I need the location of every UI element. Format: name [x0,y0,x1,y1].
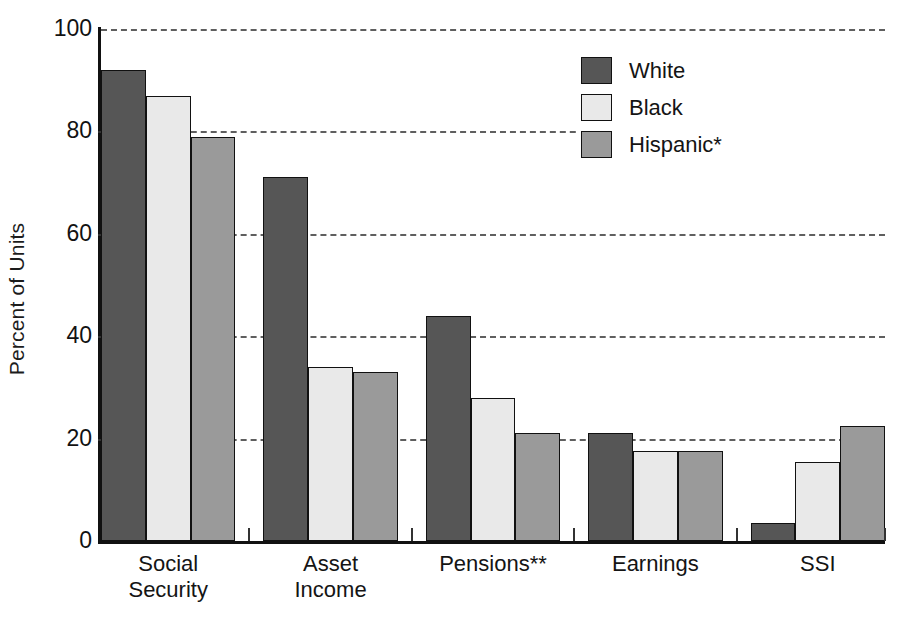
bar-pensions-hispanic [515,433,560,541]
y-tick-label-80: 80 [22,119,92,142]
bar-earnings-white [588,433,633,541]
category-label-line-0: Social [81,551,255,577]
bar-social-security-black [146,96,191,541]
category-label-line-0: Asset [243,551,417,577]
y-tick-label-60: 60 [22,222,92,245]
x-tick-mark-4 [884,528,886,541]
x-tick-mark-0 [248,528,250,541]
category-label-line-1: Security [81,577,255,603]
legend-item-black: Black [581,91,841,124]
bar-ssi-black [795,462,840,541]
bar-ssi-white [751,523,796,541]
y-tick-label-0: 0 [22,529,92,552]
bar-chart-figure: Percent of Units 020406080100 WhiteBlack… [0,0,899,625]
bar-earnings-hispanic [678,451,723,541]
x-tick-mark-1 [411,528,413,541]
x-axis-category-label: Earnings [568,551,742,577]
bar-social-security-white [101,70,146,541]
bar-social-security-hispanic [191,137,236,541]
category-label-line-1: Income [243,577,417,603]
bar-pensions-white [426,316,471,541]
y-tick-label-100: 100 [22,17,92,40]
x-axis-category-label: SSI [731,551,899,577]
chart-legend: WhiteBlackHispanic* [581,54,841,165]
bar-earnings-black [633,451,678,541]
legend-item-white: White [581,54,841,87]
legend-label: White [629,58,685,84]
bar-ssi-hispanic [840,426,885,541]
x-tick-mark-3 [736,528,738,541]
legend-label: Hispanic* [629,132,722,158]
bar-asset-income-white [263,177,308,541]
category-label-line-0: Earnings [568,551,742,577]
y-tick-label-40: 40 [22,324,92,347]
x-axis-category-label: Pensions** [406,551,580,577]
bar-pensions-black [471,398,516,541]
x-axis-category-label: SocialSecurity [81,551,255,603]
legend-swatch-icon [581,94,612,121]
y-axis-tick-labels: 020406080100 [22,0,92,625]
legend-item-hispanic: Hispanic* [581,128,841,161]
x-axis-category-label: AssetIncome [243,551,417,603]
y-tick-label-20: 20 [22,427,92,450]
gridline-100 [101,29,885,31]
legend-label: Black [629,95,683,121]
category-label-line-0: SSI [731,551,899,577]
category-label-line-0: Pensions** [406,551,580,577]
x-axis-line [98,541,885,544]
legend-swatch-icon [581,57,612,84]
legend-swatch-icon [581,131,612,158]
bar-asset-income-black [308,367,353,541]
x-tick-mark-2 [573,528,575,541]
bar-asset-income-hispanic [353,372,398,541]
